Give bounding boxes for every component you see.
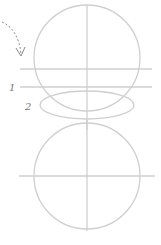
- label-2: 2: [24, 101, 31, 112]
- label-1: 1: [9, 82, 15, 93]
- dashed-arrow: [2, 22, 21, 55]
- construction-diagram: 1 2: [0, 0, 161, 245]
